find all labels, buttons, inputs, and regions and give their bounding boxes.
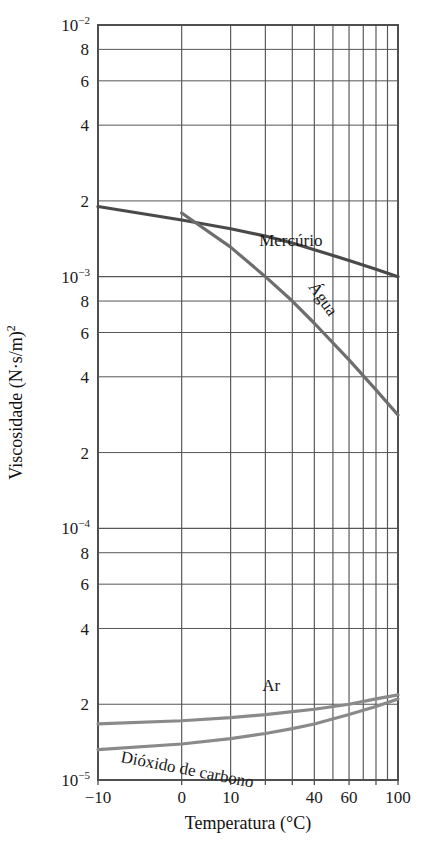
y-tick-label: 2 [81, 695, 90, 714]
x-tick-label: 100 [385, 788, 411, 807]
curve-label-merc-rio: Mercúrio [259, 231, 322, 250]
y-tick-label: 8 [81, 40, 90, 59]
y-tick-label: 2 [81, 192, 90, 211]
y-tick-label: 4 [81, 116, 90, 135]
x-tick-label: 10 [222, 788, 239, 807]
x-tick-label: 0 [177, 788, 186, 807]
y-tick-label: 6 [81, 575, 90, 594]
y-tick-label: 6 [81, 324, 90, 343]
y-tick-label: 8 [81, 544, 90, 563]
x-axis-title: Temperatura (°C) [185, 813, 311, 834]
x-tick-label: 40 [306, 788, 323, 807]
x-tick-label: 60 [341, 788, 358, 807]
y-tick-label: 6 [81, 72, 90, 91]
figure-background [0, 0, 426, 851]
x-tick-label: −10 [85, 788, 112, 807]
curve-label-ar: Ar [262, 676, 280, 695]
y-tick-label: 2 [81, 444, 90, 463]
y-tick-label: 8 [81, 292, 90, 311]
chart-figure: 10−2864210−3864210−4864210−5 −1001040601… [0, 0, 426, 851]
y-tick-label: 4 [81, 368, 90, 387]
viscosity-temperature-chart: 10−2864210−3864210−4864210−5 −1001040601… [0, 0, 426, 851]
y-tick-label: 4 [81, 620, 90, 639]
y-axis-title: Viscosidade (N·s/m)2 [4, 325, 27, 479]
